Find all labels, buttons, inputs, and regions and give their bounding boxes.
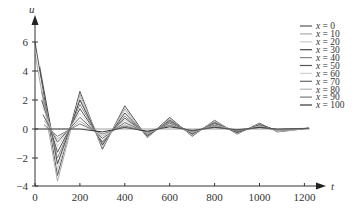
x-tick-label: 800 [206,191,223,203]
x-tick-label: 1000 [249,191,272,203]
x-tick-label: 200 [72,191,89,203]
series-line-3 [40,67,309,164]
y-tick-label: 4 [23,65,29,77]
x-axis-label: t [331,180,335,192]
y-axis-arrow-icon [32,15,39,25]
y-tick-label: −4 [16,180,28,192]
x-tick-label: 600 [161,191,178,203]
legend-label: x = 100 [315,100,345,110]
axes: u t [29,3,335,192]
y-tick-label: −2 [16,152,28,164]
series-line-1 [35,54,309,182]
x-tick-label: 1200 [293,191,316,203]
damped-oscillation-chart: u t 020040060080010001200−4−20246 x = 0x… [0,0,361,215]
y-tick-label: 6 [23,36,29,48]
x-tick-label: 0 [32,191,38,203]
x-tick-label: 400 [117,191,134,203]
legend: x = 0x = 10x = 20x = 30x = 40x = 50x = 6… [300,21,345,110]
series-line-2 [40,64,309,170]
y-tick-label: 0 [23,123,29,135]
y-tick-label: 2 [23,94,29,106]
y-axis-label: u [29,3,35,15]
curve-group [35,42,309,181]
x-axis-arrow-icon [316,183,326,190]
ticks: 020040060080010001200−4−20246 [16,36,316,203]
